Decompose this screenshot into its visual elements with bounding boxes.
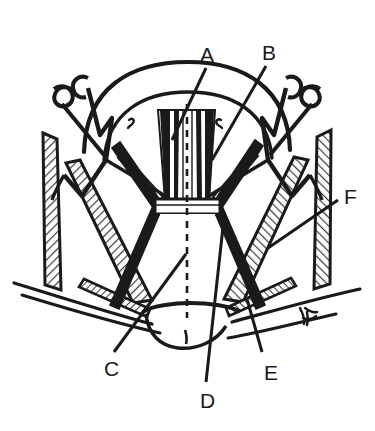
anatomy-illustration	[0, 0, 375, 431]
label-e: E	[264, 362, 278, 383]
label-f: F	[344, 186, 357, 207]
left-outer-hatched-flap	[43, 133, 61, 290]
dome-comma-right	[216, 119, 222, 128]
right-clavicle-line	[228, 289, 360, 338]
anatomical-figure: A B C D E F	[0, 0, 375, 431]
left-retractor-hook[interactable]	[52, 77, 168, 200]
label-a: A	[200, 44, 214, 65]
label-c: C	[104, 358, 119, 379]
label-b: B	[262, 42, 276, 63]
label-d: D	[200, 390, 215, 411]
dome-comma-left	[128, 119, 134, 128]
